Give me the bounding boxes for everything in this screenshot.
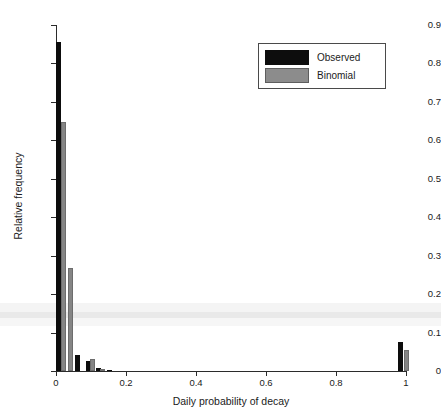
x-axis-tick [406,371,407,376]
bar-binomial [90,359,95,371]
y-axis-title: Relative frequency [12,116,24,276]
chart-figure: 00.10.20.30.40.50.60.70.80.9 00.20.40.60… [0,0,441,420]
x-axis-tick-label: 0.2 [106,378,146,388]
x-axis-tick [56,371,57,376]
bar-binomial [61,122,66,371]
chart-legend: Observed Binomial [258,43,386,89]
legend-label-observed: Observed [317,51,360,64]
bar-binomial [100,369,105,371]
legend-swatch-binomial [265,68,309,83]
legend-label-binomial: Binomial [317,69,355,82]
bar-binomial [404,350,409,371]
x-axis-tick [126,371,127,376]
x-axis-title: Daily probability of decay [56,395,406,407]
x-axis-tick-label: 0 [36,378,76,388]
bar-binomial [68,268,73,371]
bar-observed [398,342,403,371]
bar-observed [107,370,112,371]
x-axis-tick-label: 0.4 [176,378,216,388]
bar-observed [75,355,80,371]
x-axis-tick-label: 1 [386,378,426,388]
x-axis-tick-label: 0.6 [246,378,286,388]
legend-item-binomial: Binomial [265,68,381,85]
x-axis-tick-label: 0.8 [316,378,356,388]
x-axis-line [56,371,406,372]
legend-swatch-observed [265,50,309,65]
x-axis-tick [336,371,337,376]
x-axis-tick [196,371,197,376]
legend-item-observed: Observed [265,50,381,67]
x-axis-tick [266,371,267,376]
